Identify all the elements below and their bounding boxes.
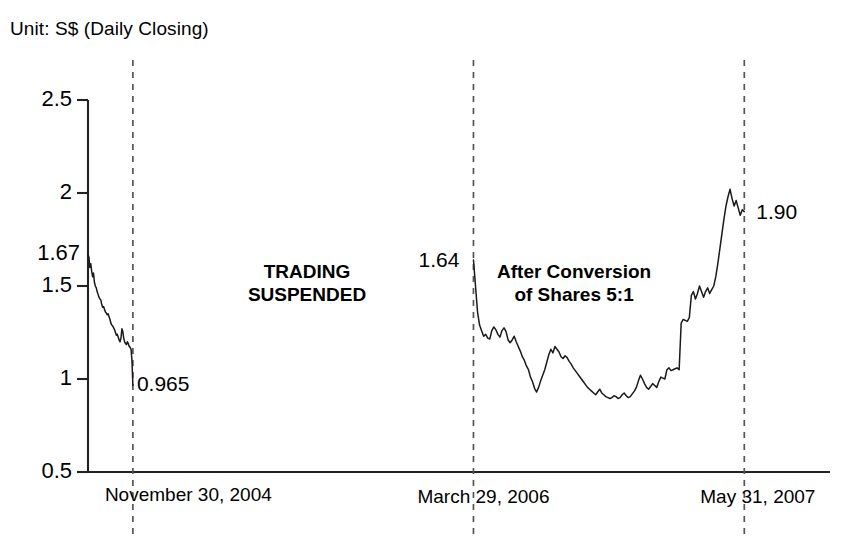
x-axis-label-2: March 29, 2006	[417, 487, 549, 506]
event-marker-lines	[133, 60, 744, 534]
y-axis-label-1: 1	[60, 367, 72, 389]
annotation-1: TRADINGSUSPENDED	[248, 260, 366, 306]
annotation-1-line-1: TRADING	[248, 260, 366, 283]
annotation-2: After Conversionof Shares 5:1	[497, 260, 651, 306]
point-label-1-64: 1.64	[418, 249, 459, 270]
chart-canvas: Unit: S$ (Daily Closing) 0.511.522.51.67…	[0, 0, 863, 559]
x-axis-label-1: November 30, 2004	[105, 485, 272, 504]
point-label-0-965: 0.965	[137, 373, 190, 394]
y-axis-label-2: 2	[60, 181, 72, 203]
y-axis-label-special-1-67: 1.67	[37, 242, 80, 264]
x-axis-label-3: May 31, 2007	[700, 487, 815, 506]
y-axis-label-2.5: 2.5	[41, 88, 72, 110]
point-label-1-90: 1.90	[756, 201, 797, 222]
y-axis-label-0.5: 0.5	[41, 460, 72, 482]
y-axis-label-1.5: 1.5	[41, 274, 72, 296]
annotation-2-line-2: of Shares 5:1	[497, 283, 651, 306]
price-line-1	[88, 254, 133, 385]
annotation-2-line-1: After Conversion	[497, 260, 651, 283]
axes-group	[77, 100, 830, 472]
chart-plot-area	[0, 0, 863, 559]
annotation-1-line-2: SUSPENDED	[248, 283, 366, 306]
